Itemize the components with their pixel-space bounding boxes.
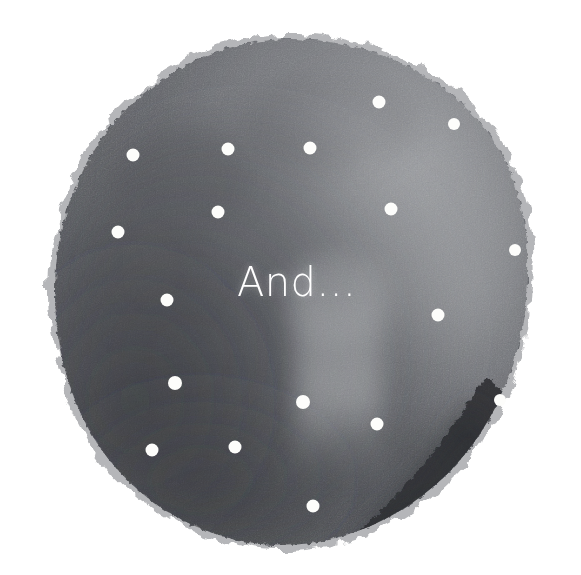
dot-2 [448, 118, 460, 130]
dot-5 [304, 142, 317, 155]
image-canvas: And... [0, 0, 581, 575]
dot-13 [296, 395, 310, 409]
dot-6 [212, 206, 225, 219]
watercolor-illustration [0, 0, 581, 575]
dot-16 [146, 444, 159, 457]
dot-11 [432, 309, 445, 322]
dot-1 [373, 96, 386, 109]
dot-10 [161, 294, 174, 307]
dot-8 [112, 226, 125, 239]
dot-12 [168, 376, 182, 390]
dot-3 [127, 149, 140, 162]
dot-4 [222, 143, 235, 156]
dot-7 [385, 203, 398, 216]
dot-9 [509, 244, 521, 256]
dot-17 [229, 441, 242, 454]
dot-15 [371, 418, 384, 431]
dot-14 [494, 394, 506, 406]
dot-18 [307, 500, 320, 513]
